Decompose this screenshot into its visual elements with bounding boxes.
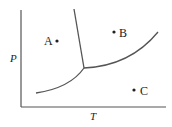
- point-c-marker: [132, 88, 135, 91]
- point-a-label: A: [44, 34, 53, 48]
- fusion-curve: [74, 9, 84, 68]
- point-b-marker: [112, 30, 115, 33]
- point-c-label: C: [140, 84, 148, 98]
- point-b-label: B: [119, 26, 127, 40]
- y-axis-label: P: [9, 52, 17, 64]
- x-axis-label: T: [90, 110, 97, 122]
- point-a-marker: [55, 39, 58, 42]
- sublimation-curve: [36, 68, 84, 93]
- phase-diagram: A B C P T: [0, 0, 172, 127]
